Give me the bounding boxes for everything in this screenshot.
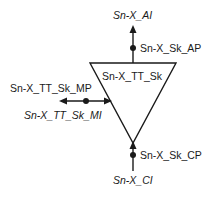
bottom-signal-label: Sn-X_CI (113, 174, 153, 186)
arrow-left-icon (59, 98, 67, 105)
connection-point-dot (130, 152, 136, 158)
management-point-dot (83, 98, 89, 104)
management-signal-label: Sn-X_TT_Sk_MI (24, 109, 102, 121)
access-point-label: Sn-X_Sk_AP (140, 42, 201, 54)
trail-termination-sink-diagram (0, 0, 213, 197)
arrow-right-icon (104, 98, 112, 105)
arrow-up-icon (130, 25, 137, 33)
connection-point-label: Sn-X_Sk_CP (140, 149, 202, 161)
arrow-up-icon (130, 141, 137, 149)
top-signal-label: Sn-X_AI (113, 9, 152, 21)
management-point-label: Sn-X_TT_Sk_MP (10, 82, 92, 94)
access-point-dot (130, 45, 136, 51)
function-name-label: Sn-X_TT_Sk (102, 70, 162, 82)
